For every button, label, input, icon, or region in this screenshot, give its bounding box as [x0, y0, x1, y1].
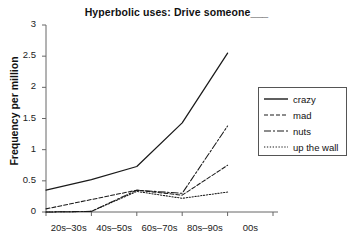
- y-tick-label: 2.5: [10, 49, 36, 60]
- y-tick-label: 3: [10, 18, 36, 29]
- series-line-up-the-wall: [46, 191, 228, 212]
- series-line-crazy: [46, 53, 228, 190]
- legend-label: crazy: [293, 94, 316, 105]
- y-tick-label: 2: [10, 80, 36, 91]
- data-series-group: [46, 53, 228, 212]
- legend-swatch-icon: [263, 110, 289, 120]
- y-tick-label: 0.5: [10, 174, 36, 185]
- legend-item-nuts[interactable]: nuts: [259, 123, 346, 139]
- legend-item-up-the-wall[interactable]: up the wall: [259, 139, 346, 155]
- legend-label: up the wall: [293, 142, 338, 153]
- series-line-mad: [46, 165, 228, 209]
- legend-swatch-icon: [263, 126, 289, 136]
- series-line-nuts: [46, 126, 228, 212]
- y-tick-label: 1: [10, 143, 36, 154]
- legend-item-crazy[interactable]: crazy: [259, 91, 346, 107]
- y-tick-label: 0: [10, 205, 36, 216]
- legend-label: nuts: [293, 126, 311, 137]
- y-tick-label: 1.5: [10, 112, 36, 123]
- chart-legend: crazymadnutsup the wall: [258, 87, 347, 156]
- axis-lines: [42, 25, 278, 216]
- legend-item-mad[interactable]: mad: [259, 107, 346, 123]
- legend-swatch-icon: [263, 94, 289, 104]
- legend-label: mad: [293, 110, 311, 121]
- legend-swatch-icon: [263, 142, 289, 152]
- chart-figure: Hyperbolic uses: Drive someone___ Freque…: [0, 0, 353, 245]
- x-tick-label: 00s: [220, 222, 280, 233]
